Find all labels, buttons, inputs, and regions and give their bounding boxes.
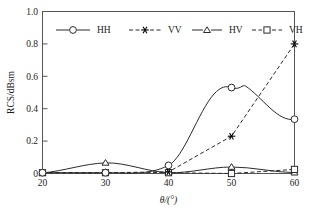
chart-figure: 0 0.2 0.4 0.6 0.8 1.0 20 30 40 50 60 RCS… [0, 0, 316, 213]
x-axis-tick-labels: 20 30 40 50 60 [38, 178, 300, 188]
rcs-versus-theta-line-chart: 0 0.2 0.4 0.6 0.8 1.0 20 30 40 50 60 RCS… [0, 0, 316, 213]
x-tick-label-40: 40 [164, 178, 174, 188]
y-tick-label-1-0: 1.0 [26, 7, 38, 17]
series-hh [39, 84, 298, 176]
legend-label-vh: VH [289, 25, 303, 35]
chart-legend: HH VV HV [56, 25, 303, 35]
star-icon [141, 27, 149, 34]
x-tick-label-60: 60 [290, 178, 300, 188]
x-tick-label-50: 50 [227, 178, 237, 188]
x-tick-label-20: 20 [38, 178, 48, 188]
vv-line [43, 44, 295, 173]
x-axis-title: θ/(°) [160, 195, 177, 206]
triangle-icon [204, 27, 211, 33]
x-tick-label-30: 30 [101, 178, 111, 188]
y-tick-label-0-8: 0.8 [26, 39, 38, 49]
vv-markers [39, 41, 298, 176]
y-axis-title: RCS/dBsm [6, 71, 16, 114]
y-axis-ticks [43, 12, 48, 174]
legend-item-hv[interactable]: HV [192, 25, 243, 35]
plot-frame [43, 12, 295, 174]
legend-item-hh[interactable]: HH [56, 25, 111, 35]
y-axis-tick-labels: 0 0.2 0.4 0.6 0.8 1.0 [26, 7, 38, 179]
legend-label-hh: HH [97, 25, 111, 35]
circle-icon [70, 27, 77, 34]
y-tick-label-0-6: 0.6 [26, 72, 38, 82]
y-tick-label-0-4: 0.4 [26, 104, 38, 114]
square-icon [264, 27, 270, 33]
y-tick-label-0-2: 0.2 [26, 136, 38, 146]
legend-label-hv: HV [229, 25, 243, 35]
legend-item-vh[interactable]: VH [252, 25, 303, 35]
legend-label-vv: VV [168, 25, 182, 35]
series-vv [39, 41, 298, 176]
legend-item-vv[interactable]: VV [129, 25, 182, 35]
